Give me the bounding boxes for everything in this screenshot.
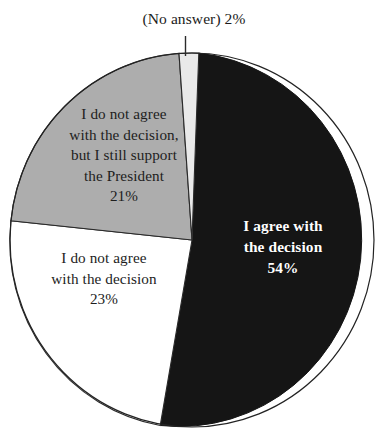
slice-label-disagree-but-support: I do not agree with the decision, but I … [26, 104, 222, 207]
slice-label-line: I do not agree [81, 105, 166, 122]
callout-label-no-answer: (No answer) 2% [0, 10, 388, 28]
slice-label-disagree: I do not agree with the decision 23% [10, 248, 198, 310]
slice-label-line: with the decision, [69, 126, 178, 143]
slice-label-percent: 23% [10, 289, 198, 310]
slice-label-line: the decision [244, 238, 323, 255]
slice-label-line: I agree with [243, 217, 323, 234]
slice-label-agree: I agree with the decision 54% [203, 215, 363, 278]
slice-label-line: the President [84, 167, 164, 184]
slice-label-percent: 21% [26, 186, 222, 207]
slice-label-line: with the decision [51, 270, 156, 287]
slice-label-line: I do not agree [61, 249, 146, 266]
slice-label-line: but I still support [71, 146, 177, 163]
pie-chart-figure: (No answer) 2% I do not agree with the d… [0, 0, 388, 438]
slice-label-percent: 54% [203, 257, 363, 278]
